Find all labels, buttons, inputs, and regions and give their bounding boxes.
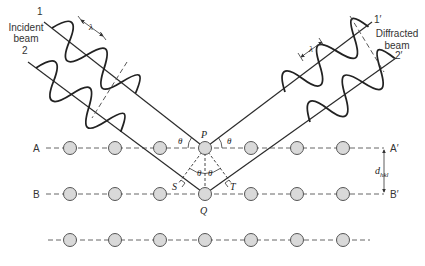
diffracted-ray-1 xyxy=(205,22,372,148)
atom xyxy=(337,234,350,247)
plane-b-prime-label: B′ xyxy=(390,189,399,200)
atom xyxy=(199,142,212,155)
theta-right-top: θ xyxy=(227,136,232,146)
atom xyxy=(245,142,258,155)
incident-lambda: λ xyxy=(88,22,93,32)
incident-beam-label-line2: beam xyxy=(4,33,48,44)
angle-arc-left-top xyxy=(188,138,192,149)
atom xyxy=(291,234,304,247)
right-angle-t xyxy=(225,180,229,187)
atom xyxy=(291,142,304,155)
diffracted-beam-label-line1: Diffracted xyxy=(370,28,424,39)
point-t-label: T xyxy=(230,181,237,192)
theta-left-top: θ xyxy=(178,136,183,146)
incident-wavefront xyxy=(92,62,127,118)
atom xyxy=(109,142,122,155)
bragg-diagram: θ θ θ θ P Q S T λ λ xyxy=(0,0,425,266)
plane-b-label: B xyxy=(33,189,40,200)
plane-a-label: A xyxy=(33,143,40,154)
dhkl-label: dhkl xyxy=(375,166,389,180)
atom xyxy=(64,188,77,201)
point-s-label: S xyxy=(172,181,177,192)
atom xyxy=(245,188,258,201)
dhkl-subscript: hkl xyxy=(380,171,389,179)
atom xyxy=(154,188,167,201)
incident-rays xyxy=(28,22,205,194)
atom xyxy=(291,188,304,201)
point-p-label: P xyxy=(200,129,207,140)
atom xyxy=(154,234,167,247)
atom xyxy=(245,234,258,247)
atom xyxy=(109,234,122,247)
right-angle-s xyxy=(181,180,185,187)
atom xyxy=(64,234,77,247)
atom xyxy=(199,188,212,201)
atom xyxy=(337,188,350,201)
incident-ray-1 xyxy=(44,22,205,148)
incident-ray-1-label: 1 xyxy=(37,6,43,17)
diffracted-wave-1 xyxy=(275,14,379,105)
incident-ray-2 xyxy=(28,62,205,194)
incident-ray-2-label: 2 xyxy=(22,45,28,56)
theta-bottom-right: θ xyxy=(208,168,213,178)
angle-arc-right-top xyxy=(218,138,222,149)
diffracted-rays xyxy=(205,22,396,194)
atom xyxy=(109,188,122,201)
incident-beam-label-line1: Incident xyxy=(4,22,48,33)
atom xyxy=(154,142,167,155)
atom xyxy=(199,234,212,247)
atom xyxy=(337,142,350,155)
diffracted-lambda: λ xyxy=(308,44,313,54)
plane-a-prime-label: A′ xyxy=(390,143,399,154)
point-q-label: Q xyxy=(200,205,208,216)
wavelength-labels: λ λ xyxy=(88,22,313,54)
theta-bottom-left: θ xyxy=(197,168,202,178)
atom xyxy=(64,142,77,155)
diffracted-ray-1-label: 1′ xyxy=(374,14,381,25)
diffracted-ray-2-label: 2′ xyxy=(395,50,402,61)
